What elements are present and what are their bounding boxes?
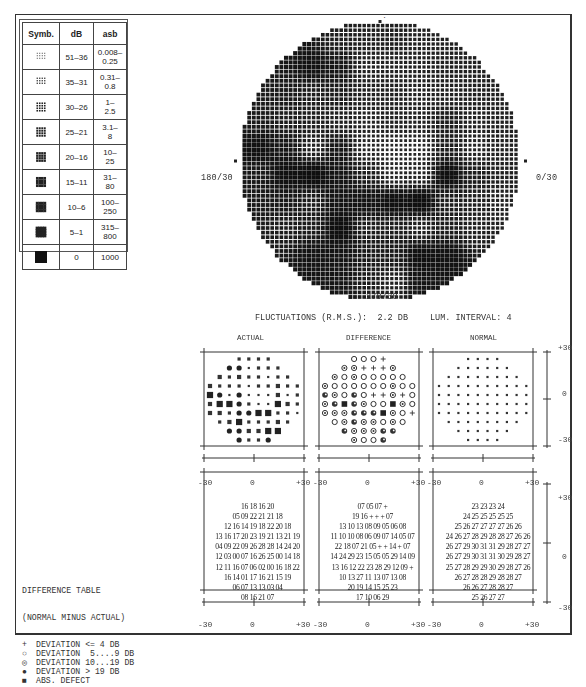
legend-asb: 100–250 xyxy=(94,195,127,220)
x-tick-label: +30 xyxy=(525,620,539,629)
o-symbol-icon: ○ xyxy=(22,649,36,658)
x-tick-label: +30 xyxy=(411,478,425,487)
y-tick-label: +30 xyxy=(558,343,572,352)
+-symbol-icon: + xyxy=(22,640,36,649)
x-tick-label: +30 xyxy=(296,620,310,629)
x-tick-label: +30 xyxy=(525,478,539,487)
legend-db: 10–6 xyxy=(60,195,94,220)
difference-legend-subtitle: (NORMAL MINUS ACTUAL) xyxy=(22,613,134,622)
difference-legend-item: ○DEVIATION 5....9 DB xyxy=(22,649,134,658)
grayscale-symbol-icon xyxy=(23,195,60,220)
difference-legend-label: DEVIATION 10...19 DB xyxy=(36,658,134,667)
legend-header-asb: asb xyxy=(94,23,127,45)
legend-asb: 10–25 xyxy=(94,145,127,170)
difference-db-table: 07 05 07 + 19 16 + + + 07 13 10 13 08 09… xyxy=(319,502,426,603)
x-tick-label: -30 xyxy=(313,620,327,629)
difference-legend-label: DEVIATION > 19 DB xyxy=(36,667,120,676)
x-tick-label: -30 xyxy=(198,478,212,487)
legend-row: 30–261–2.5 xyxy=(23,95,127,120)
legend-asb: 0.31–0.8 xyxy=(94,70,127,95)
x-tick-label: +30 xyxy=(411,620,425,629)
legend-asb: 315–800 xyxy=(94,220,127,245)
legend-db: 30–26 xyxy=(60,95,94,120)
half-symbol-icon: ● xyxy=(22,667,36,676)
difference-legend-label: DEVIATION <= 4 DB xyxy=(36,640,120,649)
x-tick-label: 0 xyxy=(479,478,484,487)
field-label-left: 180/30 xyxy=(201,173,233,183)
grayscale-symbol-icon xyxy=(23,45,60,70)
x-tick-label: 0 xyxy=(365,478,370,487)
y-tick-label: 0 xyxy=(562,552,567,561)
difference-legend-item: ◎DEVIATION 10...19 DB xyxy=(22,658,134,667)
x-tick-label: -30 xyxy=(198,620,212,629)
legend-asb: 31–80 xyxy=(94,170,127,195)
legend-db: 20–16 xyxy=(60,145,94,170)
grayscale-symbol-icon xyxy=(23,120,60,145)
x-tick-label: -30 xyxy=(427,620,441,629)
x-tick-label: 0 xyxy=(250,478,255,487)
difference-legend-label: ABS. DEFECT xyxy=(36,676,90,685)
legend-header-symbol: Symb. xyxy=(23,23,60,45)
x-tick-label: 0 xyxy=(365,620,370,629)
legend-row: 51–360.008–0.25 xyxy=(23,45,127,70)
legend-header-db: dB xyxy=(60,23,94,45)
y-tick-label: 0 xyxy=(562,389,567,398)
grayscale-legend-table: Symb. dB asb 51–360.008–0.2535–310.31–0.… xyxy=(22,22,127,270)
legend-db: 51–36 xyxy=(60,45,94,70)
legend-asb: 3.1–8 xyxy=(94,120,127,145)
grayscale-symbol-icon xyxy=(23,245,60,270)
x-tick-label: 0 xyxy=(250,620,255,629)
y-tick-label: +30 xyxy=(558,493,572,502)
x-tick-label: 0 xyxy=(479,620,484,629)
lum-interval-text: LUM. INTERVAL: 4 xyxy=(430,313,512,323)
grayscale-symbol-icon xyxy=(23,145,60,170)
legend-row: 35–310.31–0.8 xyxy=(23,70,127,95)
difference-legend: DIFFERENCE TABLE (NORMAL MINUS ACTUAL) +… xyxy=(22,568,134,687)
legend-asb: 1000 xyxy=(94,245,127,270)
legend-db: 25–21 xyxy=(60,120,94,145)
legend-row: 5–1315–800 xyxy=(23,220,127,245)
difference-legend-item: +DEVIATION <= 4 DB xyxy=(22,640,134,649)
grayscale-symbol-icon xyxy=(23,220,60,245)
ring-symbol-icon: ◎ xyxy=(22,658,36,667)
legend-row: 25–213.1–8 xyxy=(23,120,127,145)
difference-legend-label: DEVIATION 5....9 DB xyxy=(36,649,134,658)
difference-legend-title: DIFFERENCE TABLE xyxy=(22,586,134,595)
legend-db: 5–1 xyxy=(60,220,94,245)
field-label-bottom: 270/30 xyxy=(366,292,398,302)
grayscale-symbol-icon xyxy=(23,70,60,95)
actual-db-table: 16 18 16 20 05 09 22 21 21 18 12 16 14 1… xyxy=(205,502,310,603)
legend-row: 01000 xyxy=(23,245,127,270)
legend-asb: 0.008–0.25 xyxy=(94,45,127,70)
field-label-right: 0/30 xyxy=(536,173,557,183)
square-symbol-icon: ■ xyxy=(22,676,36,685)
y-tick-label: -30 xyxy=(558,435,572,444)
legend-db: 0 xyxy=(60,245,94,270)
legend-row: 10–6100–250 xyxy=(23,195,127,220)
fluctuations-text: FLUCTUATIONS (R.M.S.): 2.2 DB xyxy=(255,313,408,323)
x-tick-label: -30 xyxy=(427,478,441,487)
legend-db: 15–11 xyxy=(60,170,94,195)
difference-legend-item: ■ABS. DEFECT xyxy=(22,676,134,685)
grayscale-visual-field xyxy=(230,18,530,303)
x-tick-label: +30 xyxy=(296,478,310,487)
x-tick-label: -30 xyxy=(313,478,327,487)
difference-legend-item: ●DEVIATION > 19 DB xyxy=(22,667,134,676)
y-tick-label: -30 xyxy=(558,603,572,612)
grayscale-symbol-icon xyxy=(23,95,60,120)
legend-row: 20–1610–25 xyxy=(23,145,127,170)
legend-row: 15–1131–80 xyxy=(23,170,127,195)
grayscale-symbol-icon xyxy=(23,170,60,195)
legend-asb: 1–2.5 xyxy=(94,95,127,120)
normal-db-table: 23 23 23 24 24 25 25 25 25 25 25 26 27 2… xyxy=(434,502,542,603)
legend-db: 35–31 xyxy=(60,70,94,95)
